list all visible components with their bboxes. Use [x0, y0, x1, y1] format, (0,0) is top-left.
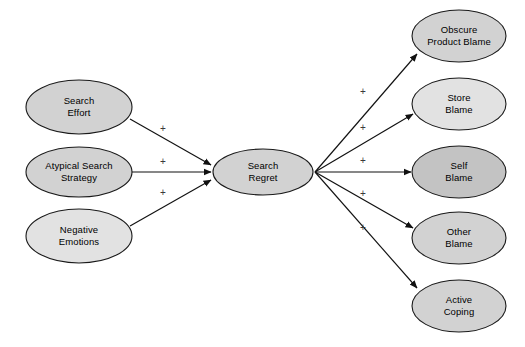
store-blame-label-line-1: Store [447, 92, 470, 103]
node-atypical-search-strategy[interactable]: Atypical SearchStrategy [26, 147, 132, 197]
edge-search-effort-to-regret-sign: + [160, 123, 166, 134]
edge-regret-to-obscure-product-blame-sign: + [360, 86, 366, 97]
node-search-effort[interactable]: SearchEffort [26, 80, 132, 134]
other-blame-label-line-1: Other [447, 226, 471, 237]
search-effort-label-line-2: Effort [67, 107, 90, 118]
edge-regret-to-self-blame-sign: + [360, 155, 366, 166]
active-coping-label-line-2: Coping [444, 306, 475, 317]
self-blame-label-line-1: Self [451, 160, 468, 171]
edge-negative-emotions-to-regret-sign: + [160, 187, 166, 198]
node-other-blame[interactable]: OtherBlame [412, 212, 506, 264]
self-blame-label-line-2: Blame [445, 172, 472, 183]
atypical-search-strategy-label-line-1: Atypical Search [45, 160, 113, 171]
edge-atypical-to-regret-sign: + [160, 156, 166, 167]
node-self-blame[interactable]: SelfBlame [412, 146, 506, 198]
obscure-product-blame-label-line-1: Obscure [441, 24, 478, 35]
search-regret-label-line-1: Search [248, 160, 279, 171]
node-obscure-product-blame[interactable]: ObscureProduct Blame [412, 10, 506, 62]
edge-negative-emotions-to-regret [130, 180, 211, 226]
node-active-coping[interactable]: ActiveCoping [412, 280, 506, 332]
edge-regret-to-active-coping [315, 172, 417, 288]
node-store-blame[interactable]: StoreBlame [412, 78, 506, 130]
edge-regret-to-store-blame-sign: + [360, 122, 366, 133]
edge-regret-to-active-coping-sign: + [360, 222, 366, 233]
active-coping-label-line-1: Active [446, 294, 472, 305]
other-blame-label-line-2: Blame [445, 238, 472, 249]
nodes-layer: SearchEffortAtypical SearchStrategyNegat… [26, 10, 506, 332]
obscure-product-blame-label-line-2: Product Blame [427, 36, 491, 47]
diagram-svg-canvas: SearchEffortAtypical SearchStrategyNegat… [0, 0, 525, 347]
edge-regret-to-obscure-product-blame [315, 54, 417, 172]
edge-search-effort-to-regret [130, 119, 211, 165]
edge-regret-to-other-blame [315, 172, 413, 228]
negative-emotions-label-line-1: Negative [60, 224, 98, 235]
search-regret-label-line-2: Regret [248, 172, 277, 183]
node-search-regret[interactable]: SearchRegret [213, 149, 313, 195]
atypical-search-strategy-label-line-2: Strategy [61, 172, 97, 183]
edge-regret-to-other-blame-sign: + [360, 188, 366, 199]
negative-emotions-label-line-2: Emotions [59, 236, 100, 247]
search-effort-label-line-1: Search [64, 95, 95, 106]
path-model-diagram: SearchEffortAtypical SearchStrategyNegat… [0, 0, 525, 347]
node-negative-emotions[interactable]: NegativeEmotions [26, 209, 132, 263]
store-blame-label-line-2: Blame [445, 104, 472, 115]
